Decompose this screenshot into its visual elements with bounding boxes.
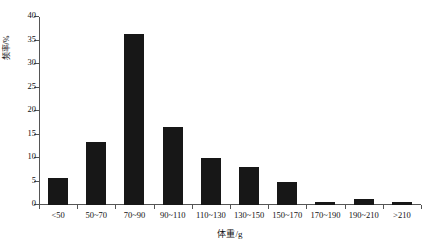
bar-slot (306, 17, 344, 205)
x-tick-label: 190~210 (349, 210, 379, 220)
bar-series (39, 17, 421, 205)
x-tick-label: 110~130 (196, 210, 226, 220)
x-tick-mark (77, 205, 78, 209)
x-tick-label: 170~190 (310, 210, 340, 220)
y-tick-label: 10 (28, 151, 37, 161)
x-tick-mark (154, 205, 155, 209)
x-tick-mark (268, 205, 269, 209)
x-axis-tick-labels: <5050~7070~9090~110110~130130~150150~170… (39, 210, 421, 224)
x-tick-label: >210 (393, 210, 411, 220)
x-tick-label: 150~170 (272, 210, 302, 220)
y-axis-title: 频率/% (0, 18, 11, 78)
y-tick-label: 20 (28, 104, 37, 114)
y-tick-label: 25 (28, 81, 37, 91)
bar (163, 127, 183, 205)
bar-slot (77, 17, 115, 205)
y-tick-label: 15 (28, 128, 37, 138)
bar (277, 182, 297, 205)
y-tick-label: 0 (32, 198, 36, 208)
bar-slot (192, 17, 230, 205)
bar-slot (115, 17, 153, 205)
bar (86, 142, 106, 205)
x-tick-mark (230, 205, 231, 209)
x-tick-label: 70~90 (124, 210, 146, 220)
x-tick-mark (115, 205, 116, 209)
bar-slot (383, 17, 421, 205)
bar-slot (268, 17, 306, 205)
bar-slot (230, 17, 268, 205)
bar-slot (39, 17, 77, 205)
bar (239, 167, 259, 205)
bar (315, 202, 335, 205)
y-tick-label: 30 (28, 57, 37, 67)
bar (48, 178, 68, 205)
x-tick-label: 90~110 (160, 210, 186, 220)
x-tick-mark (383, 205, 384, 209)
bar (201, 158, 221, 205)
bar (124, 34, 144, 205)
histogram-chart: 频率/% 0510152025303540 <5050~7070~9090~11… (0, 0, 435, 249)
x-tick-label: 50~70 (85, 210, 107, 220)
x-tick-mark (306, 205, 307, 209)
y-axis-title-text: 频率/% (0, 36, 11, 61)
bar-slot (154, 17, 192, 205)
x-tick-label: <50 (51, 210, 64, 220)
x-tick-mark (192, 205, 193, 209)
y-tick-label: 40 (28, 10, 37, 20)
bar (392, 202, 412, 205)
x-axis-title: 体重/g (39, 227, 421, 240)
bar-slot (345, 17, 383, 205)
x-axis-title-text: 体重/g (217, 229, 242, 239)
plot-area: 0510152025303540 (39, 17, 421, 205)
y-tick-label: 5 (32, 175, 36, 185)
x-tick-mark (39, 205, 40, 209)
x-tick-mark (345, 205, 346, 209)
y-tick-label: 35 (28, 34, 37, 44)
bar (354, 199, 374, 205)
x-tick-mark (421, 205, 422, 209)
x-tick-label: 130~150 (234, 210, 264, 220)
